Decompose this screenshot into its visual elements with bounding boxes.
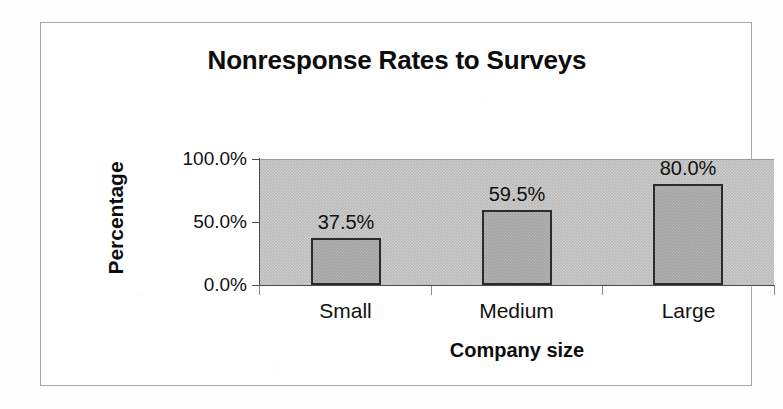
data-label-small: 37.5% bbox=[286, 211, 406, 234]
y-tick-100 bbox=[252, 159, 259, 160]
scanned-page: Nonresponse Rates to Surveys Percentage … bbox=[0, 0, 783, 409]
y-tick-label-0: 0.0% bbox=[145, 274, 247, 296]
y-tick-label-50: 50.0% bbox=[145, 211, 247, 233]
category-label-large: Large bbox=[603, 299, 774, 323]
y-axis-title-label: Percentage bbox=[104, 161, 128, 274]
y-tick-50 bbox=[252, 222, 259, 223]
category-label-small: Small bbox=[260, 299, 431, 323]
x-tick-2 bbox=[602, 286, 603, 295]
bar-large[interactable] bbox=[653, 184, 723, 285]
x-axis-title: Company size bbox=[260, 339, 774, 362]
category-label-medium: Medium bbox=[431, 299, 602, 323]
y-tick-label-100: 100.0% bbox=[145, 148, 247, 170]
bar-small[interactable] bbox=[311, 238, 381, 285]
x-axis-line bbox=[259, 285, 775, 286]
y-axis-line bbox=[259, 158, 260, 286]
x-tick-1 bbox=[431, 286, 432, 295]
chart-frame: Nonresponse Rates to Surveys Percentage … bbox=[40, 22, 752, 386]
data-label-large: 80.0% bbox=[628, 157, 748, 180]
y-axis-tick-labels: 100.0% 50.0% 0.0% bbox=[141, 23, 247, 409]
y-axis-title: Percentage bbox=[103, 153, 129, 283]
x-tick-0 bbox=[259, 286, 260, 295]
data-label-medium: 59.5% bbox=[457, 183, 577, 206]
bar-medium[interactable] bbox=[482, 210, 552, 285]
y-tick-0 bbox=[252, 285, 259, 286]
x-tick-3 bbox=[774, 286, 775, 295]
